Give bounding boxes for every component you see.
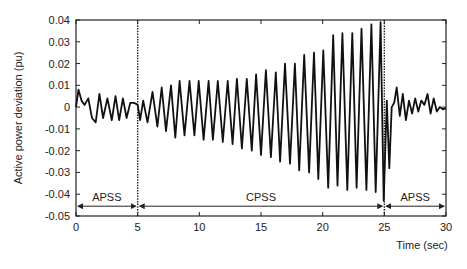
y-tick-label: -0.03	[45, 166, 70, 178]
region-label: CPSS	[246, 191, 276, 203]
x-tick-label: 30	[440, 221, 452, 233]
y-tick-label: 0	[64, 101, 70, 113]
series-line	[76, 22, 446, 201]
x-tick-label: 5	[135, 221, 141, 233]
x-tick-label: 10	[193, 221, 205, 233]
chart: 0.040.030.020.010-0.01-0.02-0.03-0.04-0.…	[0, 0, 467, 269]
y-tick-label: 0.02	[49, 58, 70, 70]
region-label: APSS	[92, 191, 121, 203]
region-label: APSS	[400, 191, 429, 203]
y-tick-label: 0.04	[49, 14, 70, 26]
region-annotations: APSSCPSSAPSS	[78, 191, 444, 206]
y-axis-title: Active power deviation (pu)	[12, 52, 24, 185]
x-tick-label: 0	[73, 221, 79, 233]
y-tick-label: -0.05	[45, 210, 70, 222]
y-tick-label: -0.01	[45, 123, 70, 135]
x-tick-label: 25	[378, 221, 390, 233]
x-tick-label: 20	[317, 221, 329, 233]
x-axis-title: Time (sec)	[396, 239, 448, 251]
y-tick-label: -0.04	[45, 188, 70, 200]
x-tick-label: 15	[255, 221, 267, 233]
y-tick-label: 0.03	[49, 36, 70, 48]
y-tick-label: 0.01	[49, 79, 70, 91]
y-tick-label: -0.02	[45, 145, 70, 157]
